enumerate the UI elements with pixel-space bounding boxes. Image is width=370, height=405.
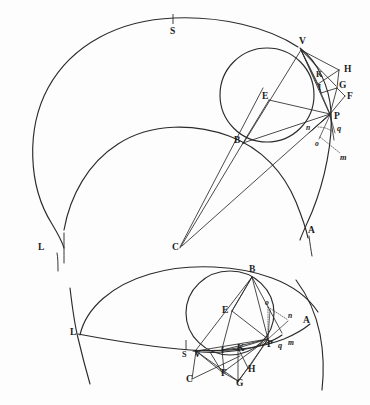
label-lower-q: q — [278, 341, 282, 350]
label-upper-L: L — [38, 242, 44, 252]
label-upper-V: V — [299, 36, 306, 46]
label-lower-A: A — [303, 315, 310, 325]
label-lower-n: n — [288, 311, 292, 320]
outer-arc-upper — [33, 18, 298, 248]
label-upper-I: I — [318, 83, 321, 92]
lower-figure: B E o n A L P q m S V I K H F G C — [57, 253, 323, 390]
label-upper-E: E — [262, 91, 268, 101]
label-upper-A: A — [308, 225, 315, 235]
label-lower-F: F — [221, 368, 227, 378]
arc-tail-right — [309, 236, 312, 256]
label-upper-K: K — [316, 70, 323, 79]
label-lower-m: m — [288, 338, 294, 347]
label-lower-K: K — [237, 343, 245, 353]
label-lower-B: B — [249, 264, 256, 274]
label-lower-G: G — [236, 378, 244, 388]
label-lower-P: P — [267, 339, 273, 349]
dotted-on-lower — [268, 307, 288, 320]
inner-arc-upper — [64, 127, 308, 238]
label-lower-I: I — [221, 346, 224, 355]
upper-figure: S V H K G I F E P n q o B m A L C — [33, 14, 353, 263]
right-arc-lower — [296, 280, 323, 390]
label-upper-B: B — [234, 135, 241, 145]
main-circle-lower — [186, 271, 274, 355]
e-to-b-upper — [243, 100, 269, 143]
label-upper-H: H — [344, 64, 352, 74]
figure-root: S V H K G I F E P n q o B m A L C — [0, 0, 370, 405]
label-lower-H: H — [248, 364, 256, 374]
v-to-c-upper — [180, 88, 263, 247]
label-upper-P: P — [334, 111, 340, 121]
label-upper-F: F — [347, 91, 353, 101]
label-lower-C: C — [186, 374, 193, 384]
label-upper-C: C — [172, 242, 179, 252]
label-upper-q: q — [337, 124, 341, 133]
label-lower-S: S — [182, 350, 187, 359]
geometric-diagram: S V H K G I F E P n q o B m A L C — [0, 0, 370, 405]
label-lower-E: E — [222, 305, 228, 315]
outer-arc-lower — [80, 267, 318, 335]
rays-from-v — [243, 50, 339, 144]
label-upper-G: G — [339, 80, 347, 90]
label-upper-S: S — [170, 26, 175, 36]
label-lower-V: V — [194, 349, 201, 359]
label-upper-o: o — [315, 139, 319, 148]
b-to-c-upper — [180, 143, 243, 248]
label-lower-o: o — [265, 298, 269, 307]
label-lower-L: L — [70, 327, 76, 337]
arc-fragment-lower — [57, 253, 58, 271]
label-upper-n: n — [306, 123, 310, 132]
label-upper-m: m — [340, 153, 347, 162]
